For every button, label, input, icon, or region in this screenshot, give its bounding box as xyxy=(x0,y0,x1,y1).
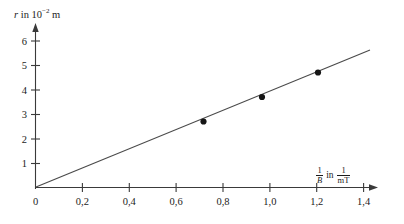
x-axis-fraction-inverse-b: 1 B xyxy=(316,166,323,184)
x-tick-label: 0,8 xyxy=(216,196,229,207)
x-tick-label: 1,4 xyxy=(357,196,371,207)
fraction-denominator: B xyxy=(316,175,323,185)
plot-area: 1 2 3 4 5 6 0 0,2 0,4 0,6 0,8 1,0 1,2 1,… xyxy=(0,0,404,224)
y-axis-unit: m xyxy=(52,9,60,20)
y-axis-title: r in 10−2 m xyxy=(14,7,60,20)
y-tick-label: 4 xyxy=(22,85,28,96)
x-tick-label: 0 xyxy=(33,196,38,207)
data-point xyxy=(315,69,321,75)
fraction-denominator: mT xyxy=(337,175,351,185)
x-tick-label: 0,4 xyxy=(123,196,137,207)
y-tick-label: 6 xyxy=(22,36,27,47)
y-tick-label: 5 xyxy=(22,60,27,71)
fraction-numerator: 1 xyxy=(337,166,351,175)
x-axis-connector: in xyxy=(323,170,336,180)
chart-figure: 1 2 3 4 5 6 0 0,2 0,4 0,6 0,8 1,0 1,2 1,… xyxy=(0,0,404,224)
x-axis-fraction-inverse-mt: 1 mT xyxy=(337,166,351,184)
data-point xyxy=(259,94,265,100)
x-tick-label: 0,2 xyxy=(76,196,89,207)
x-tick-label: 1,2 xyxy=(310,196,323,207)
y-axis-mantissa: 10 xyxy=(32,9,43,20)
y-tick-label: 1 xyxy=(22,158,27,169)
y-axis-connector: in xyxy=(21,9,29,20)
data-point xyxy=(200,118,206,124)
x-tick-label: 0,6 xyxy=(170,196,183,207)
y-tick-label: 2 xyxy=(22,134,27,145)
x-axis-title: 1 B in 1 mT xyxy=(316,166,350,184)
x-tick-label: 1,0 xyxy=(263,196,276,207)
x-axis-arrow xyxy=(369,184,378,190)
y-tick-label: 3 xyxy=(22,109,27,120)
y-axis-arrow xyxy=(32,23,38,32)
fraction-numerator: 1 xyxy=(316,166,323,175)
